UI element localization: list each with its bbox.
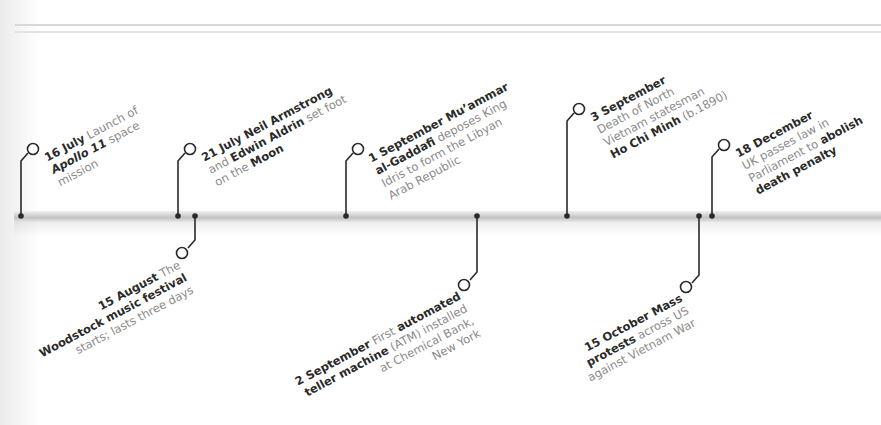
connector-2-september <box>459 213 480 290</box>
connector-16-july <box>18 144 38 219</box>
connector-1-september <box>343 144 363 219</box>
connector-18-december <box>709 140 729 219</box>
connector-3-september <box>564 104 584 219</box>
connector-15-october <box>681 213 702 292</box>
connector-21-july <box>175 144 195 219</box>
connector-15-august <box>177 213 198 258</box>
timeline-connectors <box>0 0 881 425</box>
